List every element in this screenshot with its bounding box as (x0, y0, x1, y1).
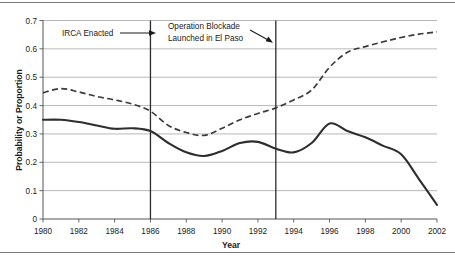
x-tick-label: 1988 (177, 227, 196, 236)
y-axis-title: Probability or Proportion (14, 69, 24, 171)
y-tick-label: 0.3 (26, 130, 38, 139)
x-tick-label: 2000 (392, 227, 411, 236)
x-tick-label: 1992 (249, 227, 268, 236)
irca-annotation: IRCA Enacted (62, 29, 156, 38)
event-lines-group (150, 21, 275, 220)
y-tick-label: 0.7 (26, 17, 38, 26)
irca-arrow-head (149, 30, 156, 36)
x-tick-label: 1998 (356, 227, 375, 236)
x-tick-label: 1984 (106, 227, 125, 236)
x-tick-label: 2002 (428, 227, 447, 236)
line-chart-canvas: 00.10.20.30.40.50.60.7 19801982198419861… (0, 0, 455, 268)
x-tick-label: 1996 (320, 227, 339, 236)
operation-blockade-label-line2: Launched in El Paso (168, 34, 244, 43)
y-tick-label: 0 (32, 215, 37, 224)
x-tick-label: 1986 (141, 227, 160, 236)
y-tick-label: 0.5 (26, 73, 38, 82)
operation-blockade-label-line1: Operation Blockade (168, 22, 240, 31)
x-tick-label: 1994 (285, 227, 304, 236)
chart-figure: 00.10.20.30.40.50.60.7 19801982198419861… (0, 0, 455, 268)
y-tick-labels-group: 00.10.20.30.40.50.60.7 (26, 17, 38, 225)
y-tick-label: 0.6 (26, 45, 38, 54)
x-tick-labels-group: 1980198219841986198819901992199419961998… (34, 227, 447, 236)
x-axis-title: Year (222, 240, 241, 250)
x-tickmarks-group (43, 219, 437, 223)
operation-blockade-annotation: Operation Blockade Launched in El Paso (168, 22, 273, 43)
top-divider-rule (0, 2, 455, 3)
gridlines-group (43, 21, 437, 191)
dashed-series-line (43, 32, 437, 136)
bottom-divider-rule (0, 252, 455, 253)
x-tick-label: 1990 (213, 227, 232, 236)
y-tick-label: 0.4 (26, 102, 38, 111)
x-tick-label: 1980 (34, 227, 53, 236)
operation-blockade-arrow-head (266, 36, 273, 42)
x-tick-label: 1982 (70, 227, 89, 236)
y-tick-label: 0.1 (26, 187, 38, 196)
irca-annotation-label: IRCA Enacted (62, 29, 114, 38)
y-tick-label: 0.2 (26, 158, 38, 167)
